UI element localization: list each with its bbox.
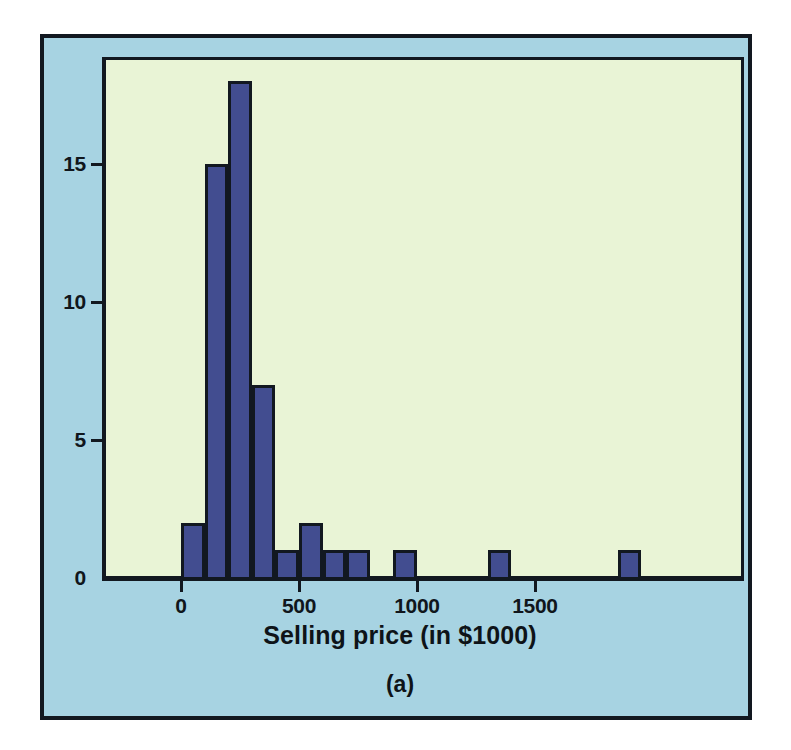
histogram-bar [323,550,347,580]
histogram-bar [393,550,417,580]
histogram-bar [181,523,205,580]
x-axis-title: Selling price (in $1000) [44,621,756,650]
histogram-bar [488,550,512,580]
histogram-bar [275,550,299,580]
figure-root: 050010001500051015 Selling price (in $10… [0,0,791,750]
histogram-bar [346,550,370,580]
histogram-bar [618,550,642,580]
figure-caption: (a) [44,671,756,698]
figure-panel: 050010001500051015 Selling price (in $10… [40,34,752,720]
histogram-bar [205,164,229,580]
histogram-bar [228,81,252,580]
histogram-bar [299,523,323,580]
histogram-bar [252,385,276,580]
